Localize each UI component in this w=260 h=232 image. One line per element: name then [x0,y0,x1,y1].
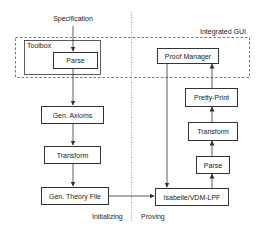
proving-label: Proving [141,213,165,221]
transform-box-left-label: Transform [57,152,89,159]
gen-theory-file-box: Gen. Theory File [41,187,109,205]
transform-box-left: Transform [44,146,101,164]
parse-box-left-label: Parse [66,57,84,64]
parse-box-right: Parse [196,156,230,174]
pretty-print-label: Pretty-Print [194,94,229,101]
gen-axioms-label: Gen. Axioms [53,112,93,119]
isabelle-vdm-lpf-label: Isabelle/VDM-LPF [164,194,221,201]
pretty-print-box: Pretty-Print [185,88,238,107]
specification-label: Specification [53,15,93,23]
integrated-gui-label: Integrated GUI [200,28,246,36]
isabelle-vdm-lpf-box: Isabelle/VDM-LPF [155,188,229,206]
transform-box-right: Transform [188,122,238,141]
parse-box-left: Parse [53,52,98,69]
toolbox-label: Toolbox [27,42,51,50]
proof-manager-label: Proof Manager [165,53,211,60]
transform-box-right-label: Transform [197,128,229,135]
parse-box-right-label: Parse [204,162,222,169]
gen-theory-file-label: Gen. Theory File [49,193,101,200]
gen-axioms-box: Gen. Axioms [41,106,104,124]
proof-manager-box: Proof Manager [157,48,219,64]
initializing-label: Initializing [92,213,123,221]
